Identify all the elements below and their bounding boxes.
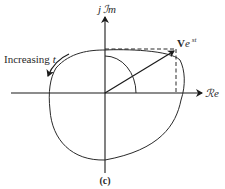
rotation-label: Increasingt: [4, 53, 57, 65]
phasor-vector: [105, 51, 174, 93]
phasor-diagram: jℐm ℛe Vest Increasingt (c): [0, 0, 225, 189]
figure-caption: (c): [99, 175, 110, 187]
spiral-locus: [49, 50, 184, 160]
imaginary-axis-label: jℐm: [96, 3, 116, 15]
phasor-label: Vest: [177, 36, 198, 49]
real-axis-label: ℛe: [205, 87, 219, 99]
angle-arc: [105, 56, 136, 93]
